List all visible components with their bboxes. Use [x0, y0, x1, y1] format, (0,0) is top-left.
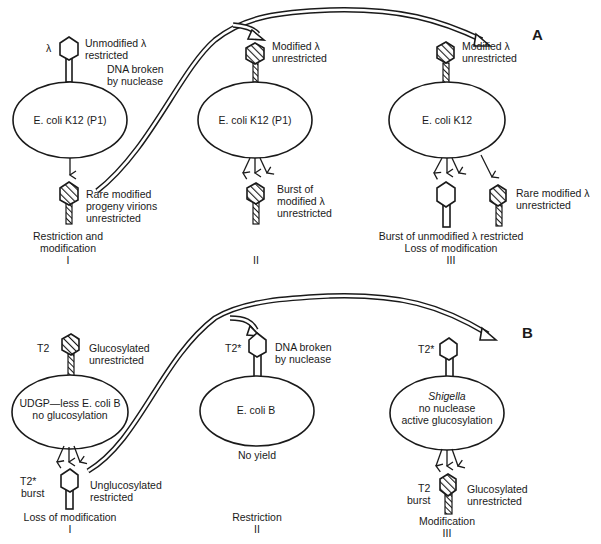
- modified-phage-icon: [60, 182, 78, 224]
- stage-numeral: II: [253, 254, 259, 266]
- phage-label: T2: [37, 342, 49, 354]
- panel-label-b: B: [522, 324, 533, 341]
- progeny-note: Unglucosylated: [90, 479, 162, 491]
- modified-phage-icon: [246, 43, 264, 82]
- progeny-note: unrestricted: [86, 212, 141, 224]
- phage-note: Modified λ: [462, 40, 511, 52]
- progeny-note: unrestricted: [277, 207, 332, 219]
- burst-label: burst: [407, 494, 430, 506]
- stage-caption: modification: [40, 242, 96, 254]
- burst-arrows-icon: [436, 449, 458, 466]
- progeny-note: Rare modified: [86, 188, 152, 200]
- progeny-note: modified λ: [277, 195, 326, 207]
- burst-label: T2*: [20, 475, 36, 487]
- stage-numeral: II: [254, 523, 260, 535]
- result-note: No yield: [238, 449, 276, 461]
- nuclease-note: by nuclease: [107, 75, 163, 87]
- arrow-down-icon: [481, 155, 492, 177]
- unmodified-phage-icon: [437, 182, 455, 227]
- stage-caption: Modification: [419, 515, 475, 527]
- phage-note: Glucosylated: [89, 342, 150, 354]
- stage-b-2: T2* DNA broken by nuclease E. coli B No …: [200, 333, 332, 535]
- stage-a-1: λ Unmodified λ restricted DNA broken by …: [13, 37, 164, 266]
- stage-b-3: T2* Shigella no nuclease active glucosyl…: [390, 338, 528, 539]
- stage-a-3: Modified λ unrestricted E. coli K12 Rare…: [379, 40, 591, 266]
- modified-phage-icon: [440, 474, 456, 514]
- burst-arrows-icon: [434, 158, 459, 173]
- host-label: E. coli K12 (P1): [34, 114, 107, 126]
- host-label: no nuclease: [419, 402, 476, 414]
- host-label: Shigella: [428, 390, 466, 402]
- host-label: E. coli B: [237, 404, 276, 416]
- stage-caption: Loss of modification: [405, 242, 498, 254]
- stage-numeral: I: [69, 523, 72, 535]
- phage-label: λ: [46, 42, 52, 54]
- stage-numeral: III: [443, 527, 452, 539]
- progeny-note: unrestricted: [467, 495, 522, 507]
- phage-note: Modified λ: [272, 40, 321, 52]
- phage-label: T2*: [225, 342, 241, 354]
- unmodified-phage-icon: [440, 338, 457, 379]
- phage-note: unrestricted: [272, 52, 327, 64]
- phage-label: T2*: [418, 343, 434, 355]
- nuclease-note: by nuclease: [275, 353, 331, 365]
- rare-note: Rare modified λ: [516, 187, 590, 199]
- host-label: E. coli K12 (P1): [219, 114, 292, 126]
- progeny-note: Burst of: [277, 183, 313, 195]
- stage-caption: Restriction: [232, 511, 282, 523]
- burst-label: burst: [21, 487, 44, 499]
- stage-b-1: T2 Glucosylated unrestricted UDGP—less E…: [12, 334, 162, 535]
- panel-a: A λ Unmodified λ restricted DNA broken b…: [13, 10, 590, 266]
- panel-b: B T2 Glucosylated unrestricted UDGP—less…: [12, 296, 533, 539]
- phage-note: Unmodified λ: [85, 37, 147, 49]
- restriction-modification-diagram: A λ Unmodified λ restricted DNA broken b…: [0, 0, 601, 544]
- nuclease-note: DNA broken: [107, 63, 164, 75]
- nuclease-note: DNA broken: [275, 341, 332, 353]
- burst-arrows-icon: [243, 158, 267, 173]
- modified-phage-icon: [247, 183, 264, 224]
- host-label: E. coli K12: [422, 114, 472, 126]
- phage-note: unrestricted: [462, 52, 517, 64]
- unmodified-phage-icon: [249, 333, 266, 378]
- stage-a-2: Modified λ unrestricted E. coli K12 (P1)…: [198, 40, 332, 266]
- host-label: no glucosylation: [32, 409, 107, 421]
- stage-numeral: I: [67, 254, 70, 266]
- modified-phage-icon: [437, 42, 454, 84]
- burst-label: T2: [418, 482, 430, 494]
- modified-phage-icon: [490, 185, 506, 226]
- unmodified-phage-icon: [60, 37, 78, 82]
- phage-note: restricted: [85, 49, 128, 61]
- phage-note: unrestricted: [89, 354, 144, 366]
- unmodified-phage-icon: [61, 469, 78, 509]
- progeny-note: restricted: [90, 491, 133, 503]
- stage-caption: Burst of unmodified λ restricted: [379, 230, 524, 242]
- panel-label-a: A: [532, 26, 543, 43]
- modified-phage-icon: [62, 334, 79, 376]
- stage-caption: Loss of modification: [24, 511, 117, 523]
- stage-caption: Restriction and: [33, 230, 103, 242]
- host-label: active glucosylation: [401, 414, 492, 426]
- rare-note: unrestricted: [516, 199, 571, 211]
- progeny-note: Glucosylated: [467, 483, 528, 495]
- progeny-note: progeny virions: [86, 200, 157, 212]
- host-label: UDGP—less E. coli B: [20, 397, 121, 409]
- stage-numeral: III: [447, 254, 456, 266]
